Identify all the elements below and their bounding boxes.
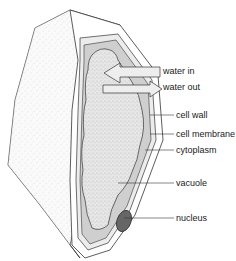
label-cell-membrane: cell membrane	[176, 129, 235, 139]
label-water-out: water out	[163, 82, 200, 92]
label-vacuole: vacuole	[176, 178, 207, 188]
label-cytoplasm: cytoplasm	[176, 145, 217, 155]
label-water-in: water in	[163, 66, 195, 76]
label-nucleus: nucleus	[176, 213, 207, 223]
label-cell-wall: cell wall	[176, 110, 208, 120]
